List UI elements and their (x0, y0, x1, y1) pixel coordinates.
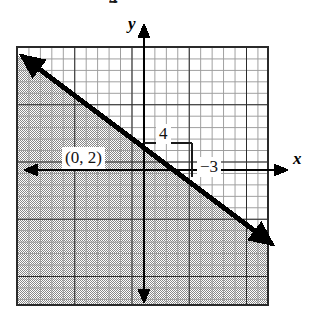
coordinate-plane-svg (0, 0, 318, 324)
graph-figure: 4 (0, 0, 318, 324)
y-intercept-label: (0, 2) (62, 147, 105, 169)
slope-rise-label: −3 (197, 157, 221, 177)
slope-run-label: 4 (156, 124, 171, 144)
grid-lines (17, 47, 268, 305)
x-axis-label: x (293, 150, 302, 167)
y-axis-label: y (128, 15, 136, 32)
